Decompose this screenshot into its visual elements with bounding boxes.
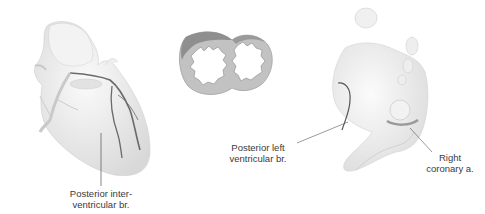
diagram-canvas	[0, 0, 485, 214]
label-posterior-interventricular: Posterior inter- ventricular br.	[62, 188, 140, 210]
leader-line-posterior-left	[297, 122, 348, 143]
cross-section-illustration	[179, 32, 272, 95]
label-right-coronary: Right coronary a.	[420, 152, 480, 174]
label-posterior-left-ventricular: Posterior left ventricular br.	[220, 142, 296, 164]
label-line-1: Posterior inter-	[62, 188, 140, 199]
label-line-1: Right	[420, 152, 480, 163]
label-line-2: ventricular br.	[62, 199, 140, 210]
vessel-opening-1	[355, 8, 377, 28]
label-line-2: coronary a.	[420, 163, 480, 174]
label-line-1: Posterior left	[220, 142, 296, 153]
anterior-heart-illustration	[34, 22, 150, 186]
label-line-2: ventricular br.	[220, 153, 296, 164]
inferior-heart-illustration	[297, 8, 432, 171]
